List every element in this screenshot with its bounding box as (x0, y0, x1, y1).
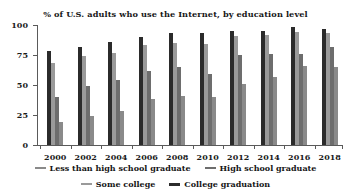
y-tick-label: 50 (17, 80, 28, 90)
bar-group (139, 25, 155, 145)
legend-swatch-icon (81, 183, 92, 185)
x-tick-mark (193, 145, 194, 149)
x-tick-mark (162, 145, 163, 149)
y-tick-label: 75 (17, 50, 28, 60)
y-tick-mark (33, 25, 38, 26)
legend-item[interactable]: Some college (81, 179, 156, 189)
bar-group (200, 25, 216, 145)
y-tick-label: 100 (11, 20, 28, 30)
chart-title: % of U.S. adults who use the Internet, b… (0, 9, 351, 19)
x-tick-mark (254, 145, 255, 149)
plot-area: 2000200220042006200820102012201420162018 (38, 25, 343, 145)
legend-item[interactable]: Less than high school graduate (35, 163, 191, 173)
bar-group (108, 25, 124, 145)
legend-row: Some collegeCollege graduation (0, 176, 351, 192)
chart-legend: Less than high school graduateHigh schoo… (0, 160, 351, 192)
y-tick-mark (33, 85, 38, 86)
y-tick-mark (33, 55, 38, 56)
y-tick-label: 0 (22, 140, 28, 150)
x-tick-mark (40, 145, 41, 149)
bar-group (261, 25, 277, 145)
bar (59, 122, 63, 145)
y-axis-labels: 0255075100 (0, 25, 36, 146)
y-tick-mark (33, 115, 38, 116)
bar-group (78, 25, 94, 145)
bar (273, 77, 277, 145)
legend-label: High school graduate (220, 163, 317, 173)
y-tick-label: 25 (17, 110, 28, 120)
y-tick-mark (33, 145, 38, 146)
x-tick-mark (342, 145, 343, 149)
legend-label: Less than high school graduate (50, 163, 191, 173)
bar-group (291, 25, 307, 145)
bar-group (322, 25, 338, 145)
bar (303, 66, 307, 145)
legend-label: College graduation (184, 179, 270, 189)
bar (334, 67, 338, 145)
bar (120, 111, 124, 145)
legend-row: Less than high school graduateHigh schoo… (0, 160, 351, 176)
bar (242, 84, 246, 145)
bar-group (169, 25, 185, 145)
legend-label: Some college (96, 179, 156, 189)
bar-group (230, 25, 246, 145)
bar (151, 99, 155, 145)
x-tick-mark (223, 145, 224, 149)
x-tick-mark (101, 145, 102, 149)
legend-swatch-icon (169, 183, 180, 186)
x-tick-mark (315, 145, 316, 149)
chart-container: % of U.S. adults who use the Internet, b… (0, 0, 351, 196)
legend-swatch-icon (205, 167, 216, 169)
x-tick-mark (284, 145, 285, 149)
legend-item[interactable]: High school graduate (205, 163, 317, 173)
legend-item[interactable]: College graduation (169, 179, 270, 189)
bar (90, 116, 94, 145)
x-axis-line (37, 145, 343, 146)
bar-groups (38, 25, 343, 145)
bar (181, 96, 185, 145)
x-tick-mark (71, 145, 72, 149)
bar (212, 97, 216, 145)
bar-group (47, 25, 63, 145)
legend-swatch-icon (35, 167, 46, 169)
x-tick-mark (132, 145, 133, 149)
